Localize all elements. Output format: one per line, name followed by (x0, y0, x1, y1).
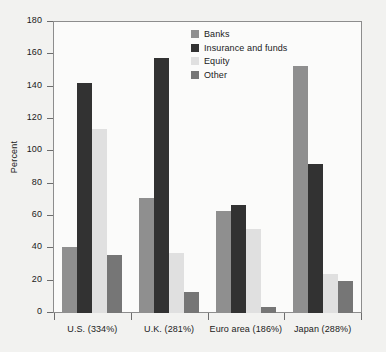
bar (77, 83, 92, 313)
x-axis-label: U.S. (334%) (54, 324, 131, 334)
x-axis-separator (54, 313, 55, 320)
y-axis-tick-label: 120 (27, 112, 42, 122)
y-axis-tick-label: 80 (32, 177, 42, 187)
legend-item: Insurance and funds (191, 43, 287, 53)
bar (293, 66, 308, 313)
legend-swatch-icon (191, 71, 199, 79)
legend-label: Banks (204, 29, 230, 39)
bar (169, 253, 184, 313)
bar (261, 307, 276, 313)
x-axis-label: Japan (288%) (284, 324, 361, 334)
x-axis-separator (208, 313, 209, 320)
bar (323, 274, 338, 313)
y-axis-tick-label: 160 (27, 47, 42, 57)
y-axis-tick-label: 0 (37, 306, 42, 316)
x-axis-labels: U.S. (334%)U.K. (281%)Euro area (186%)Ja… (54, 324, 361, 334)
legend-swatch-icon (191, 44, 199, 52)
y-axis-tick-label: 100 (27, 144, 42, 154)
bar (154, 58, 169, 313)
bar-group (284, 22, 361, 313)
x-axis-separator (131, 313, 132, 320)
bar-group (54, 22, 131, 313)
legend-swatch-icon (191, 30, 199, 38)
bar (92, 129, 107, 313)
y-axis-tick-label: 140 (27, 80, 42, 90)
y-axis-label: Percent (9, 122, 19, 192)
legend-label: Other (204, 70, 227, 80)
bar-chart: Percent 180160140120100806040200 U.S. (3… (0, 0, 386, 352)
bar (184, 292, 199, 313)
legend-swatch-icon (191, 57, 199, 65)
chart-legend: BanksInsurance and fundsEquityOther (191, 29, 287, 83)
legend-item: Banks (191, 29, 287, 39)
legend-item: Other (191, 70, 287, 80)
bar (62, 247, 77, 313)
legend-label: Equity (204, 56, 230, 66)
bar (139, 198, 154, 313)
x-axis-label: U.K. (281%) (131, 324, 208, 334)
y-axis-tick-label: 180 (27, 15, 42, 25)
y-axis-tick-label: 40 (32, 241, 42, 251)
bar (107, 255, 122, 313)
legend-label: Insurance and funds (204, 43, 287, 53)
bar (231, 205, 246, 313)
bar (338, 281, 353, 313)
bar (246, 229, 261, 313)
x-axis-separator (284, 313, 285, 320)
x-axis-label: Euro area (186%) (208, 324, 285, 334)
y-axis-tick-label: 20 (32, 274, 42, 284)
legend-item: Equity (191, 56, 287, 66)
bar (216, 211, 231, 313)
x-axis-separator (361, 313, 362, 320)
y-axis-tick-label: 60 (32, 209, 42, 219)
bar (308, 164, 323, 313)
